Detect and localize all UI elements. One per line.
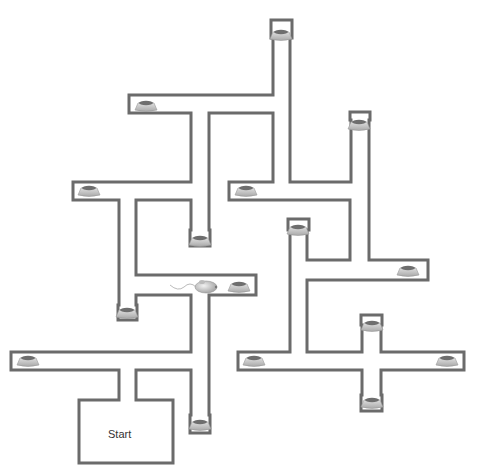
bowl-icon [270, 30, 292, 41]
bowl-icon [361, 398, 383, 409]
bowl-icon [189, 236, 211, 247]
bowl-icon [189, 420, 211, 431]
start-label: Start [108, 428, 131, 440]
bowl-icon [78, 186, 100, 197]
bowl-icon [436, 356, 458, 367]
bowl-icon [228, 282, 250, 293]
maze-wall [11, 20, 464, 463]
maze-walls [11, 20, 464, 463]
mouse-icon [170, 280, 217, 293]
bowl-icon [135, 101, 157, 112]
bowl-icon [17, 356, 39, 367]
bowl-icon [397, 266, 419, 277]
bowl-icon [361, 321, 383, 332]
bowl-icon [287, 225, 309, 236]
bowl-icon [235, 186, 257, 197]
maze-diagram [0, 0, 477, 470]
bowl-icon [243, 356, 265, 367]
